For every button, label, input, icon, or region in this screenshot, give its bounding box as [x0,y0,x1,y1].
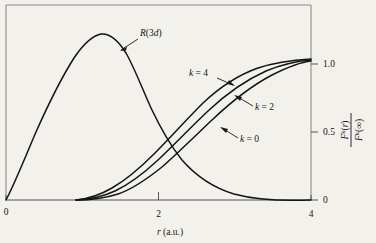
curve-k0 [76,61,311,200]
annotation-label-r3d: R(3d) [139,28,162,39]
annotation-leader-r3d [121,39,138,50]
annotation-label-k4: k = 4 [189,68,208,78]
plot-svg: 0 2 4 r (a.u.) 0 0.5 1.0 Fk(r) Fk(∞) R(3… [0,0,376,243]
x-tick-label-0: 0 [4,207,9,217]
figure-container: 0 2 4 r (a.u.) 0 0.5 1.0 Fk(r) Fk(∞) R(3… [0,0,376,243]
annotation-label-k2: k = 2 [255,102,274,112]
y-tick-label-0: 0 [323,195,328,205]
x-axis-label: r (a.u.) [157,227,183,238]
curve-k4 [76,59,311,200]
y-axis-label: Fk(r) Fk(∞) [339,113,365,147]
y-tick-label-0p5: 0.5 [323,127,335,137]
y-axis-label-denominator: Fk(∞) [353,119,365,142]
annotation-arrowhead-k0 [220,127,228,133]
annotation-label-k0: k = 0 [240,134,259,144]
curve-k2 [76,60,311,200]
x-tick-label-2: 2 [156,209,161,219]
y-tick-label-1p0: 1.0 [323,59,335,69]
y-axis-label-numerator: Fk(r) [339,120,351,140]
curve-r3d [6,34,311,200]
x-tick-label-4: 4 [309,209,314,219]
